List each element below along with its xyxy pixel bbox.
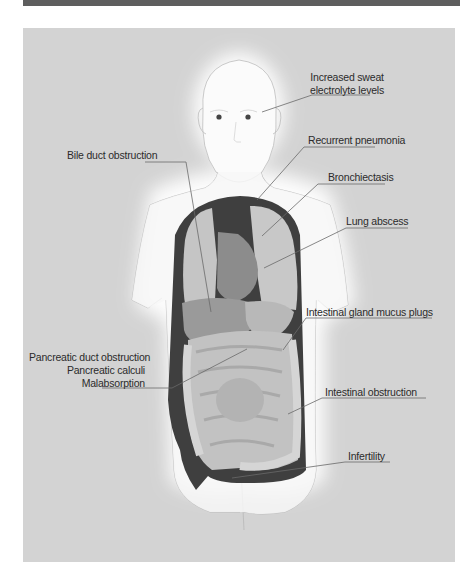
label-sweat-line1: Increased sweat (310, 71, 384, 84)
label-bronchiectasis: Bronchiectasis (328, 171, 393, 184)
right-eye (245, 114, 250, 119)
label-pancreatic-duct-obstruction: Pancreatic duct obstruction (29, 351, 145, 364)
header-bar (23, 0, 460, 6)
diagram-panel: Increased sweat electrolyte levels Recur… (23, 28, 455, 562)
label-intestinal-gland-mucus-plugs: Intestinal gland mucus plugs (306, 306, 433, 319)
label-recurrent-pneumonia: Recurrent pneumonia (308, 134, 405, 147)
label-sweat: Increased sweat electrolyte levels (310, 71, 384, 97)
label-pancreatic-calculi: Pancreatic calculi (29, 364, 145, 377)
head (198, 60, 281, 182)
label-infertility: Infertility (348, 450, 385, 463)
label-sweat-line2: electrolyte levels (310, 84, 384, 97)
body-illustration (23, 28, 455, 562)
label-intestinal-obstruction: Intestinal obstruction (325, 386, 417, 399)
label-pancreatic: Pancreatic duct obstruction Pancreatic c… (29, 351, 145, 390)
label-lung-abscess: Lung abscess (346, 215, 408, 228)
label-bile-duct-obstruction: Bile duct obstruction (67, 149, 157, 162)
label-malabsorption: Malabsorption (29, 377, 145, 390)
left-eye (216, 114, 221, 119)
